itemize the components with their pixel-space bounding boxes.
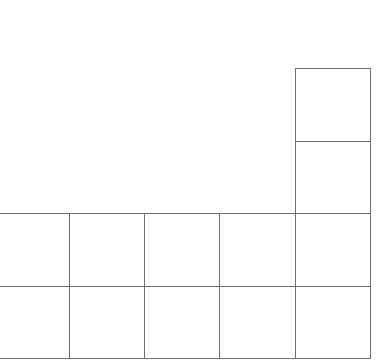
grid-cell	[0, 286, 70, 359]
grid-diagram	[0, 0, 380, 361]
grid-cell	[295, 286, 371, 359]
grid-cell	[295, 213, 371, 287]
grid-cell	[219, 213, 296, 287]
grid-cell	[295, 68, 371, 142]
grid-cell	[219, 286, 296, 359]
grid-cell	[295, 141, 371, 214]
grid-cell	[69, 286, 145, 359]
grid-cell	[0, 213, 70, 287]
grid-cell	[144, 213, 220, 287]
grid-cell	[144, 286, 220, 359]
grid-cell	[69, 213, 145, 287]
